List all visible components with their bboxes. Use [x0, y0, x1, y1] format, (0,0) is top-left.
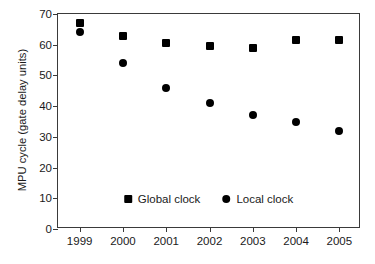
chart-figure: MPU cycle (gate delay units) 01020304050… [0, 0, 375, 264]
legend-entry: Global clock [124, 193, 201, 205]
x-tick-mark [210, 227, 211, 232]
y-tick-label: 10 [39, 192, 52, 204]
x-tick-label: 2001 [153, 235, 179, 247]
y-tick-mark [53, 137, 58, 138]
x-tick-label: 1999 [67, 235, 93, 247]
y-tick-label: 0 [46, 223, 52, 235]
x-tick-mark [339, 227, 340, 232]
data-point-circle [162, 84, 170, 92]
y-tick-label: 70 [39, 8, 52, 20]
x-tick-label: 2004 [283, 235, 309, 247]
x-tick-mark [166, 227, 167, 232]
x-tick-label: 2005 [327, 235, 353, 247]
data-point-square [292, 36, 300, 44]
data-point-circle [206, 99, 214, 107]
y-tick-mark [53, 198, 58, 199]
x-tick-label: 2003 [240, 235, 266, 247]
x-tick-mark [296, 227, 297, 232]
x-tick-mark [123, 227, 124, 232]
chart-legend: Global clockLocal clock [124, 193, 294, 205]
data-point-square [119, 32, 127, 40]
x-tick-label: 2002 [197, 235, 223, 247]
y-tick-mark [53, 229, 58, 230]
y-tick-label: 30 [39, 131, 52, 143]
data-point-square [76, 19, 84, 27]
x-tick-mark [253, 227, 254, 232]
y-tick-label: 60 [39, 39, 52, 51]
y-axis-title: MPU cycle (gate delay units) [14, 12, 30, 228]
data-point-square [206, 42, 214, 50]
x-tick-label: 2000 [110, 235, 136, 247]
data-point-square [249, 44, 257, 52]
square-marker-icon [124, 195, 132, 203]
y-tick-mark [53, 168, 58, 169]
data-point-circle [335, 127, 343, 135]
legend-label: Local clock [236, 193, 293, 205]
y-tick-label: 20 [39, 162, 52, 174]
plot-area: 010203040506070 199920002001200220032004… [57, 13, 360, 228]
y-tick-label: 40 [39, 100, 52, 112]
data-point-circle [292, 118, 300, 126]
data-point-square [335, 36, 343, 44]
data-point-circle [249, 111, 257, 119]
x-tick-mark [80, 227, 81, 232]
y-tick-label: 50 [39, 69, 52, 81]
circle-marker-icon [222, 195, 230, 203]
y-tick-mark [53, 14, 58, 15]
legend-label: Global clock [138, 193, 201, 205]
y-tick-mark [53, 75, 58, 76]
y-tick-mark [53, 45, 58, 46]
legend-entry: Local clock [222, 193, 293, 205]
data-point-circle [119, 59, 127, 67]
y-tick-mark [53, 106, 58, 107]
data-point-square [162, 39, 170, 47]
data-point-circle [76, 28, 84, 36]
